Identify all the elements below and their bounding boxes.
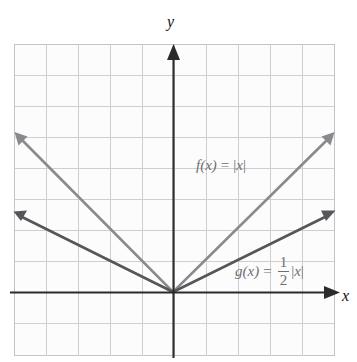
function-f-equals-sign: = [221, 158, 229, 173]
function-g-fraction-one-half: 1 2 [278, 255, 290, 288]
function-f-variable: x [236, 158, 243, 173]
x-axis-label: x [342, 288, 349, 304]
function-g-name: g [235, 264, 243, 279]
function-f-abs-close: | [243, 158, 246, 173]
function-g-variable: x [294, 264, 301, 279]
absolute-value-graph-figure: y x f(x) = |x| g(x) = 1 2 |x| [0, 0, 357, 362]
function-label-g: g(x) = 1 2 |x| [235, 255, 304, 288]
function-f-argument: (x) [200, 158, 217, 173]
y-axis-label: y [167, 14, 174, 30]
function-g-abs-close: | [301, 264, 304, 279]
function-g-equals-sign: = [263, 264, 271, 279]
fraction-denominator: 2 [278, 271, 290, 288]
function-label-f: f(x) = |x| [196, 158, 246, 173]
fraction-numerator: 1 [278, 255, 290, 271]
coordinate-plane-svg [0, 0, 357, 362]
function-g-argument: (x) [243, 264, 260, 279]
